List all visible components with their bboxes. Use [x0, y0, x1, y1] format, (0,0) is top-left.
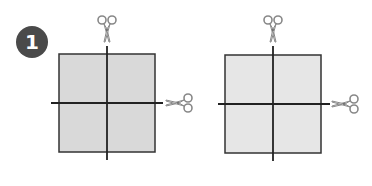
scissors-icon: [332, 95, 358, 113]
right-panel: [218, 16, 358, 161]
step-number: 1: [25, 30, 39, 54]
scissors-icon: [98, 16, 116, 42]
scissors-icon: [264, 16, 282, 42]
diagram-canvas: 1: [0, 0, 372, 186]
scissors-icon: [166, 94, 192, 112]
step-badge: 1: [16, 26, 48, 58]
left-panel: [51, 16, 192, 160]
